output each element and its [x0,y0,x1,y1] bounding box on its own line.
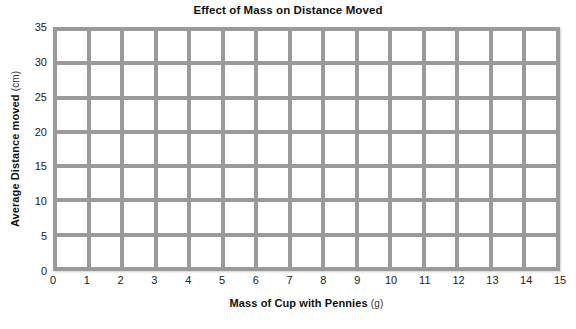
grid-cell [459,65,489,95]
grid-cell [459,134,489,164]
grid-cell [526,31,556,61]
y-axis-unit: (cm) [10,71,21,91]
grid-cell [459,237,489,267]
grid-cell [292,100,322,130]
grid-cell [493,237,523,267]
grid-cell [526,65,556,95]
grid-cell [57,134,87,164]
grid-cell [526,134,556,164]
y-tick-label: 15 [35,160,47,172]
grid-cell [258,202,288,232]
chart-grid [57,31,556,267]
grid-cell [191,65,221,95]
y-axis-label-text: Average Distance moved (cm) [9,71,21,227]
grid-cell [191,168,221,198]
grid-cell [426,134,456,164]
x-tick-label: 8 [320,274,326,286]
grid-cell [526,237,556,267]
grid-cell [225,31,255,61]
y-tick-label: 10 [35,195,47,207]
grid-cell [91,31,121,61]
grid-cell [359,100,389,130]
x-axis-label: Mass of Cup with Pennies (g) [53,297,560,309]
grid-cell [124,134,154,164]
grid-cell [325,100,355,130]
x-tick-label: 12 [452,274,464,286]
grid-cell [158,31,188,61]
x-tick-label: 2 [118,274,124,286]
grid-cell [426,65,456,95]
grid-cell [426,168,456,198]
y-tick-label: 25 [35,91,47,103]
grid-cell [426,202,456,232]
x-tick-label: 4 [185,274,191,286]
grid-cell [392,100,422,130]
grid-cell [158,100,188,130]
grid-cell [191,100,221,130]
grid-cell [292,134,322,164]
grid-cell [493,168,523,198]
grid-cell [124,237,154,267]
grid-cell [292,237,322,267]
grid-cell [57,202,87,232]
grid-cell [124,168,154,198]
grid-cell [292,168,322,198]
y-tick-label: 0 [41,265,47,277]
grid-cell [493,202,523,232]
grid-cell [57,65,87,95]
chart-title: Effect of Mass on Distance Moved [0,4,576,16]
grid-cell [325,202,355,232]
y-tick-label: 30 [35,56,47,68]
plot-area [53,27,560,271]
grid-cell [359,237,389,267]
grid-cell [526,168,556,198]
x-tick-label: 3 [151,274,157,286]
x-tick-label: 15 [554,274,566,286]
x-tick-label: 1 [84,274,90,286]
grid-cell [459,31,489,61]
x-tick-label: 9 [354,274,360,286]
grid-cell [91,65,121,95]
grid-cell [191,134,221,164]
grid-cell [191,237,221,267]
grid-cell [526,100,556,130]
grid-cell [57,100,87,130]
grid-cell [526,202,556,232]
x-axis-tick-labels: 0123456789101112131415 [53,274,560,290]
grid-cell [225,237,255,267]
x-tick-label: 5 [219,274,225,286]
grid-cell [124,31,154,61]
grid-cell [359,202,389,232]
y-axis-tick-labels: 05101520253035 [24,27,50,271]
grid-cell [91,168,121,198]
grid-cell [158,202,188,232]
grid-cell [258,65,288,95]
grid-cell [493,65,523,95]
y-axis-label: Average Distance moved (cm) [6,27,24,271]
grid-cell [459,100,489,130]
grid-cell [57,31,87,61]
grid-cell [325,65,355,95]
grid-cell [426,100,456,130]
x-tick-label: 10 [385,274,397,286]
grid-cell [493,134,523,164]
grid-cell [124,65,154,95]
grid-cell [292,65,322,95]
x-tick-label: 11 [419,274,430,286]
grid-cell [392,134,422,164]
grid-cell [91,202,121,232]
grid-cell [325,134,355,164]
grid-cell [493,31,523,61]
grid-cell [91,134,121,164]
grid-cell [359,134,389,164]
grid-cell [392,65,422,95]
grid-cell [158,65,188,95]
grid-cell [459,168,489,198]
x-tick-label: 13 [486,274,498,286]
grid-cell [225,100,255,130]
grid-cell [325,31,355,61]
grid-cell [124,202,154,232]
x-tick-label: 6 [253,274,259,286]
y-tick-label: 20 [35,126,47,138]
x-tick-label: 14 [520,274,532,286]
